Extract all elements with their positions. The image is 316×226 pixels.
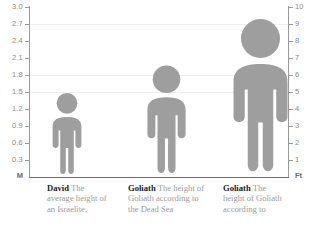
tick-label-left-0-9: 0.9: [12, 122, 23, 130]
tick-right-10: [289, 7, 293, 8]
tick-left-1-5: [25, 92, 29, 93]
caption-legend: David The average height of an Israelite…: [0, 183, 316, 226]
caption-goliath-dss-name: Goliath: [128, 183, 156, 193]
tick-left-2-7: [25, 24, 29, 25]
left-axis-spine: [29, 6, 30, 178]
tick-label-left-1-2: 1.2: [12, 105, 23, 113]
left-axis-unit-label: M: [17, 172, 23, 180]
tick-left-0-3: [25, 160, 29, 161]
person-figure-goliath-masoretic: [223, 17, 298, 177]
tick-left-0-9: [25, 126, 29, 127]
tick-left-1-8: [25, 75, 29, 76]
tick-label-left-2-7: 2.7: [12, 20, 23, 28]
caption-goliath-masoretic-name: Goliath: [223, 183, 251, 193]
caption-goliath-masoretic: Goliath The height of Goliath according …: [223, 183, 289, 214]
tick-left-2-1: [25, 58, 29, 59]
tick-label-left-2-1: 2.1: [12, 54, 23, 62]
tick-left-2-4: [25, 41, 29, 42]
tick-label-right-10: 10: [295, 3, 304, 11]
person-figure-david: [47, 92, 87, 177]
tick-label-left-1-5: 1.5: [12, 88, 23, 96]
person-figure-goliath-dead-sea-scrolls: [140, 64, 193, 177]
tick-label-left-0-6: 0.6: [12, 139, 23, 147]
tick-label-left-0-3: 0.3: [12, 156, 23, 164]
tick-left-0-6: [25, 143, 29, 144]
tick-label-left-3-0: 3.0: [12, 3, 23, 11]
baseline-axis: [29, 177, 289, 178]
tick-label-left-2-4: 2.4: [12, 37, 23, 45]
caption-david-name: David: [47, 183, 69, 193]
tick-left-1-2: [25, 109, 29, 110]
plot-area: 3.0 2.7 2.4 2.1 1.8 1.5 1.2 0.9 0.6 0.3 …: [29, 6, 289, 178]
caption-david: David The average height of an Israelite…: [47, 183, 109, 214]
tick-left-3-0: [25, 7, 29, 8]
tick-label-left-1-8: 1.8: [12, 71, 23, 79]
caption-goliath-dead-sea-scrolls: Goliath The height of Goliath according …: [128, 183, 205, 214]
height-comparison-chart: 3.0 2.7 2.4 2.1 1.8 1.5 1.2 0.9 0.6 0.3 …: [0, 0, 316, 226]
